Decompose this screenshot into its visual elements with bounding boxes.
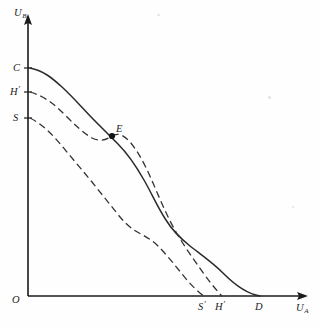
y-axis-label-base: U	[14, 7, 22, 18]
c-label-base: C	[13, 62, 20, 73]
d-label: D	[255, 300, 263, 312]
s-label: S	[13, 111, 19, 123]
d-label-base: D	[255, 301, 263, 312]
scan-speck	[292, 206, 294, 208]
s-label-base: S	[13, 112, 18, 123]
curve-h-prime	[30, 92, 222, 296]
curve-cd	[30, 68, 260, 296]
s-prime-label-prime: ′	[204, 299, 206, 309]
h-prime-axis-label-prime: ′	[223, 299, 225, 309]
y-axis-label: UB	[14, 8, 27, 20]
s-prime-label-base: S	[198, 301, 203, 312]
curve-s	[30, 118, 204, 296]
scan-speck	[157, 14, 160, 16]
h-prime-label-prime: ′	[18, 84, 20, 94]
y-axis-label-subscript: B	[22, 12, 26, 20]
c-label: C	[13, 61, 20, 73]
economics-figure: UB UA O C H′ S E S′ H′ D	[0, 0, 320, 329]
h-prime-axis-label-base: H	[215, 301, 223, 312]
s-prime-label: S′	[198, 300, 206, 312]
origin-label: O	[12, 295, 20, 306]
h-prime-axis-label: H′	[215, 300, 225, 312]
x-axis-label-base: U	[296, 302, 304, 313]
scan-speck	[268, 96, 271, 99]
x-axis-label-subscript: A	[304, 307, 308, 315]
h-prime-label-base: H	[10, 86, 18, 97]
h-prime-label: H′	[10, 85, 20, 97]
plot-canvas	[0, 0, 320, 329]
x-axis-label: UA	[296, 303, 309, 315]
point-e-label: E	[116, 124, 123, 135]
point-e-dot	[109, 133, 115, 139]
